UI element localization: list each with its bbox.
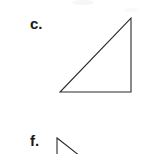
choice-label-c: c.: [30, 16, 43, 31]
choice-label-f: f.: [30, 133, 39, 148]
worksheet-page: c. f.: [0, 0, 161, 154]
partial-triangle-figure-f: [50, 132, 100, 154]
right-triangle-shape: [60, 18, 131, 92]
partial-triangle-shape: [57, 138, 80, 154]
scan-artifact-smudge: [72, 0, 94, 5]
right-triangle-figure-c: [54, 12, 140, 100]
